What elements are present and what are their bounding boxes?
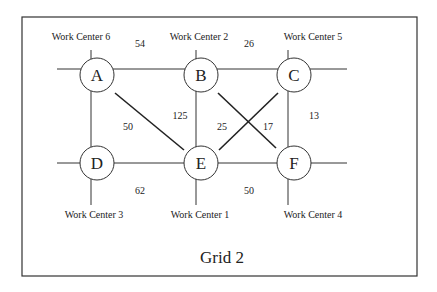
diagram-frame bbox=[22, 17, 417, 276]
work-center-label-c: Work Center 5 bbox=[284, 32, 343, 42]
diagram-title: Grid 2 bbox=[200, 249, 244, 266]
work-center-label-a: Work Center 6 bbox=[52, 32, 111, 42]
edge-weight-a-e: 50 bbox=[123, 122, 133, 132]
work-center-label-f: Work Center 4 bbox=[284, 210, 343, 220]
work-center-label-b: Work Center 2 bbox=[170, 32, 229, 42]
node-d-label: D bbox=[91, 154, 103, 173]
edge-weight-b-e: 125 bbox=[173, 111, 188, 121]
edge-weight-c-e: 25 bbox=[217, 122, 227, 132]
work-center-label-e: Work Center 1 bbox=[171, 210, 230, 220]
node-c-label: C bbox=[288, 66, 299, 85]
edge-weight-c-f: 13 bbox=[309, 111, 319, 121]
node-e-label: E bbox=[196, 154, 206, 173]
node-f-label: F bbox=[289, 154, 298, 173]
edge-weight-d-e: 62 bbox=[135, 186, 145, 196]
work-center-label-d: Work Center 3 bbox=[65, 210, 124, 220]
node-a-label: A bbox=[91, 66, 104, 85]
edge-weight-a-b: 54 bbox=[135, 39, 145, 49]
edge-weight-b-f: 17 bbox=[263, 122, 273, 132]
edge-weight-b-c: 26 bbox=[244, 39, 254, 49]
edge-weight-e-f: 50 bbox=[244, 186, 254, 196]
node-b-label: B bbox=[195, 66, 206, 85]
